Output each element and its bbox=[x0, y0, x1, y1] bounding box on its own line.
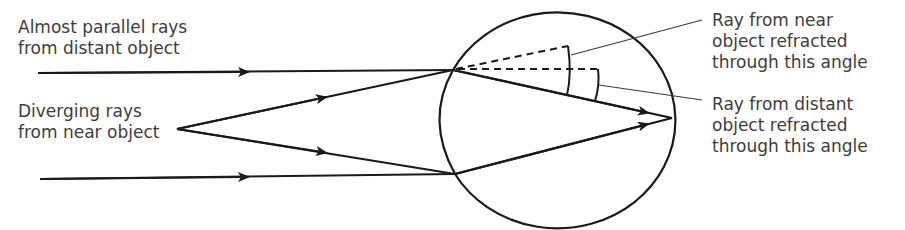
near-ray-upper-arrow bbox=[177, 98, 322, 129]
distant-angle-leader bbox=[599, 85, 702, 100]
near-angle-arc bbox=[567, 46, 570, 95]
distant-rays bbox=[38, 70, 455, 179]
dashed-continuations bbox=[456, 46, 598, 69]
distant-ray-bottom-arrow bbox=[40, 177, 244, 179]
eye-refraction-diagram bbox=[0, 0, 905, 230]
cornea-outline bbox=[439, 70, 455, 174]
refracted-ray-bottom-arrow bbox=[455, 125, 644, 174]
near-angle-leader bbox=[571, 20, 702, 55]
eyeball-outline bbox=[453, 12, 675, 228]
distant-angle-arc bbox=[595, 69, 599, 101]
distant-ray-top-arrow bbox=[38, 72, 244, 73]
leader-lines bbox=[571, 20, 702, 100]
near-ray-lower-arrow bbox=[177, 129, 322, 152]
refracted-rays bbox=[453, 70, 672, 174]
near-rays bbox=[177, 70, 455, 174]
near-ray-continuation bbox=[456, 46, 568, 69]
refracted-ray-top-arrow bbox=[453, 70, 644, 112]
eyeball bbox=[439, 12, 675, 228]
